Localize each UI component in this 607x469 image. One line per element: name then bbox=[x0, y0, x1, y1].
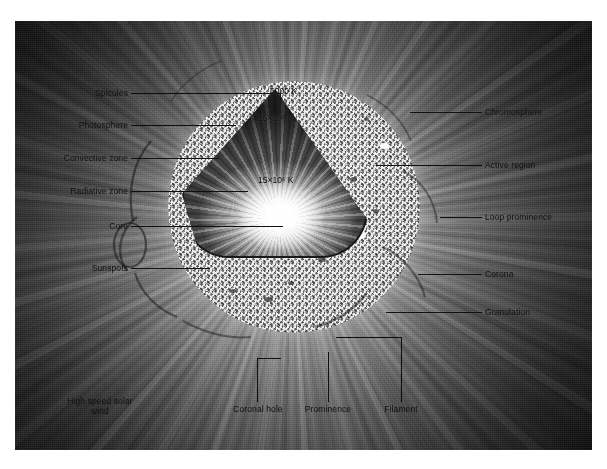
annotation-layer: Spicules Photosphere Convective zone Rad… bbox=[0, 0, 607, 469]
label-granulation: Granulation bbox=[485, 307, 595, 317]
leader-convective-zone bbox=[131, 158, 218, 159]
temp-surface: 6000 K bbox=[270, 86, 297, 96]
temp-core: 15×10⁶ K bbox=[258, 175, 293, 185]
leader-coronal-hole-vert bbox=[257, 358, 258, 402]
temp-chromosphere: 15×10⁵ K bbox=[258, 113, 293, 123]
label-loop-prominence: Loop prominence bbox=[485, 212, 597, 222]
label-coronal-hole: Coronal hole bbox=[218, 404, 298, 414]
leader-chromosphere bbox=[410, 112, 482, 113]
temp-chromosphere-value: 15×10⁵ K bbox=[258, 113, 293, 123]
leader-filament-vert bbox=[401, 337, 402, 402]
leader-spicules bbox=[131, 93, 281, 94]
temp-surface-value: 6000 K bbox=[270, 86, 297, 96]
leader-filament-horz bbox=[336, 337, 402, 338]
label-line-2: wind bbox=[91, 406, 109, 416]
leader-coronal-hole-horz bbox=[257, 358, 281, 359]
label-core: Core bbox=[60, 221, 128, 231]
leader-granulation bbox=[386, 312, 482, 313]
figure-canvas: Spicules Photosphere Convective zone Rad… bbox=[0, 0, 607, 469]
leader-sunspots bbox=[131, 268, 210, 269]
label-radiative-zone: Radiative zone bbox=[12, 186, 128, 196]
leader-active-region bbox=[376, 165, 482, 166]
label-prominence: Prominence bbox=[288, 404, 368, 414]
label-high-speed-solar-wind: High speed solar wind bbox=[42, 396, 158, 416]
label-spicules: Spicules bbox=[28, 88, 128, 98]
leader-loop-prominence bbox=[440, 217, 482, 218]
label-sunspots: Sunspots bbox=[38, 263, 128, 273]
leader-core bbox=[131, 226, 283, 227]
label-line-1: High speed solar bbox=[67, 396, 132, 406]
label-photosphere: Photosphere bbox=[20, 120, 128, 130]
leader-radiative-zone bbox=[131, 191, 248, 192]
leader-prominence-vert bbox=[328, 352, 329, 402]
label-filament: Filament bbox=[360, 404, 442, 414]
label-chromosphere: Chromosphere bbox=[485, 107, 595, 117]
label-active-region: Active region bbox=[485, 160, 595, 170]
leader-corona bbox=[418, 274, 482, 275]
label-convective-zone: Convective zone bbox=[8, 153, 128, 163]
leader-photosphere bbox=[131, 125, 236, 126]
temp-core-value: 15×10⁶ K bbox=[258, 175, 293, 185]
label-corona: Corona bbox=[485, 269, 595, 279]
